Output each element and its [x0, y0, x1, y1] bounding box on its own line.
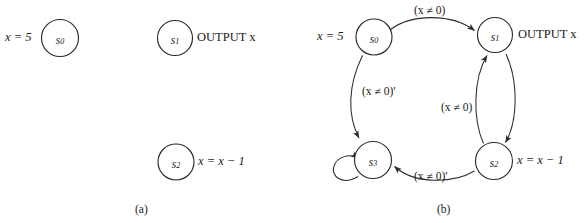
panel-b-state-s1-label: s1	[480, 28, 510, 44]
panel-b-edge-s2-to-s1	[476, 56, 487, 144]
panel-b-edge-s0-to-s3	[351, 56, 363, 139]
panel-a-caption: (a)	[135, 203, 148, 215]
panel-b-edge-label-middle: (x ≠ 0)	[441, 101, 472, 113]
panel-a-state-s2-label: s2	[161, 155, 191, 171]
panel-b-s2-assignment: x = x − 1	[517, 154, 564, 167]
state-diagram-figure: s0 x = 5 s1 OUTPUT x s2 x = x − 1 (a) s0…	[0, 0, 586, 223]
panel-a-state-s1-label: s1	[160, 31, 190, 47]
panel-b-s1-output: OUTPUT x	[518, 28, 576, 41]
panel-b-state-s0-label: s0	[359, 30, 389, 46]
panel-b-edge-s1-to-s2	[506, 54, 516, 143]
panel-b-edge-label-bottom: (x ≠ 0)′	[414, 170, 448, 182]
panel-b-edge-label-top: (x ≠ 0)	[414, 4, 445, 16]
panel-b-state-s2-label: s2	[479, 154, 509, 170]
panel-b-state-s3-label: s3	[358, 153, 388, 169]
panel-b-edge-label-left: (x ≠ 0)′	[362, 85, 396, 97]
panel-b-edge-s0-to-s1	[391, 18, 475, 31]
panel-a-s1-output: OUTPUT x	[197, 31, 255, 44]
panel-a-s2-assignment: x = x − 1	[198, 155, 245, 168]
panel-b-caption: (b)	[437, 203, 450, 215]
panel-b-s0-assignment: x = 5	[317, 30, 343, 43]
panel-a-state-s0-label: s0	[45, 31, 75, 47]
panel-a-s0-assignment: x = 5	[5, 31, 31, 44]
